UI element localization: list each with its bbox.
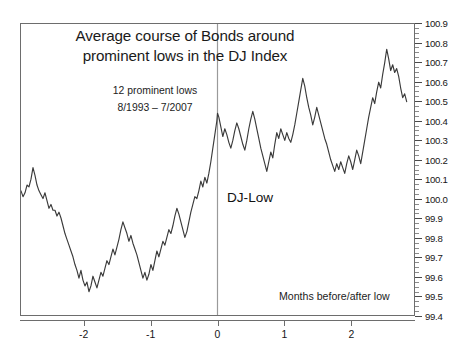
y-axis-minor-tick (415, 72, 419, 73)
y-axis-tick (415, 179, 422, 180)
y-axis-tick (415, 121, 422, 122)
sample-annotation: 12 prominent lows 8/1993 – 7/2007 (96, 82, 214, 116)
sample-count-label: 12 prominent lows (96, 82, 214, 99)
y-axis-minor-tick (415, 262, 419, 263)
y-axis-minor-tick (415, 111, 419, 112)
y-axis-minor-tick (415, 91, 419, 92)
y-axis-tick (415, 257, 422, 258)
y-axis-minor-tick (415, 228, 419, 229)
y-axis-tick (415, 199, 422, 200)
y-axis-tick-label: 100.0 (425, 193, 448, 204)
x-axis-tick (218, 320, 219, 326)
y-axis-tick-label: 100.6 (425, 76, 448, 87)
y-axis-minor-tick (415, 248, 419, 249)
y-axis-tick (415, 62, 422, 63)
x-axis-tick (284, 320, 285, 326)
y-axis-minor-tick (415, 213, 419, 214)
y-axis-minor-tick (415, 52, 419, 53)
y-axis-minor-tick (415, 189, 419, 190)
y-axis-tick (415, 238, 422, 239)
y-axis-tick-label: 99.5 (425, 291, 442, 302)
y-axis-tick (415, 43, 422, 44)
y-axis-tick (415, 277, 422, 278)
x-axis-tick (351, 320, 352, 326)
y-axis-minor-tick (415, 150, 419, 151)
y-axis-minor-tick (415, 38, 419, 39)
y-axis-minor-tick (415, 292, 419, 293)
y-axis: 99.499.599.699.799.899.9100.0100.1100.21… (415, 23, 466, 316)
x-axis-tick-label: 2 (349, 329, 355, 340)
y-axis-minor-tick (415, 170, 419, 171)
y-axis-tick-label: 100.4 (425, 115, 448, 126)
y-axis-tick (415, 82, 422, 83)
y-axis-tick-label: 100.7 (425, 57, 448, 68)
dj-low-label: DJ-Low (227, 190, 273, 205)
y-axis-minor-tick (415, 116, 419, 117)
x-axis-tick (84, 320, 85, 326)
y-axis-tick-label: 100.8 (425, 37, 448, 48)
sample-period-label: 8/1993 – 7/2007 (96, 99, 214, 116)
y-axis-minor-tick (415, 77, 419, 78)
y-axis-minor-tick (415, 287, 419, 288)
chart-title-line-1: Average course of Bonds around (20, 26, 350, 46)
y-axis-minor-tick (415, 33, 419, 34)
y-axis-minor-tick (415, 126, 419, 127)
y-axis-minor-tick (415, 130, 419, 131)
y-axis-tick-label: 100.3 (425, 135, 448, 146)
y-axis-tick-label: 99.6 (425, 271, 442, 282)
y-axis-minor-tick (415, 174, 419, 175)
y-axis-tick (415, 296, 422, 297)
plot-svg (21, 24, 414, 315)
x-axis: -2-1012 (20, 320, 415, 353)
chart-title-line-2: prominent lows in the DJ Index (20, 46, 350, 66)
y-axis-minor-tick (415, 135, 419, 136)
y-axis-minor-tick (415, 311, 419, 312)
y-axis-tick-label: 100.2 (425, 154, 448, 165)
y-axis-minor-tick (415, 28, 419, 29)
y-axis-minor-tick (415, 57, 419, 58)
y-axis-minor-tick (415, 106, 419, 107)
y-axis-minor-tick (415, 47, 419, 48)
x-axis-tick (151, 320, 152, 326)
y-axis-tick-label: 99.8 (425, 232, 442, 243)
x-axis-title: Months before/after low (279, 290, 390, 302)
y-axis-minor-tick (415, 306, 419, 307)
y-axis-minor-tick (415, 267, 419, 268)
y-axis-minor-tick (415, 233, 419, 234)
y-axis-minor-tick (415, 243, 419, 244)
y-axis-minor-tick (415, 165, 419, 166)
y-axis-minor-tick (415, 86, 419, 87)
y-axis-minor-tick (415, 223, 419, 224)
y-axis-minor-tick (415, 282, 419, 283)
page-title: Average course of Bonds around prominent… (20, 26, 350, 66)
y-axis-tick-label: 99.4 (425, 311, 442, 322)
x-axis-tick-label: 1 (282, 329, 288, 340)
y-axis-minor-tick (415, 209, 419, 210)
y-axis-minor-tick (415, 253, 419, 254)
y-axis-minor-tick (415, 272, 419, 273)
y-axis-minor-tick (415, 184, 419, 185)
y-axis-tick (415, 101, 422, 102)
y-axis-tick-label: 100.5 (425, 96, 448, 107)
y-axis-tick (415, 160, 422, 161)
y-axis-tick-label: 100.1 (425, 174, 448, 185)
x-axis-tick-label: 0 (215, 329, 221, 340)
x-axis-tick-label: -1 (146, 329, 155, 340)
y-axis-tick-label: 100.9 (425, 18, 448, 29)
y-axis-tick (415, 23, 422, 24)
y-axis-tick (415, 218, 422, 219)
y-axis-minor-tick (415, 194, 419, 195)
y-axis-tick (415, 316, 422, 317)
chart-figure: Average course of Bonds around prominent… (0, 0, 466, 353)
y-axis-tick-label: 99.9 (425, 213, 442, 224)
y-axis-tick (415, 140, 422, 141)
plot-area (20, 23, 415, 316)
y-axis-minor-tick (415, 145, 419, 146)
y-axis-minor-tick (415, 155, 419, 156)
y-axis-minor-tick (415, 204, 419, 205)
y-axis-minor-tick (415, 67, 419, 68)
y-axis-minor-tick (415, 301, 419, 302)
x-axis-tick-label: -2 (79, 329, 88, 340)
y-axis-minor-tick (415, 96, 419, 97)
y-axis-tick-label: 99.7 (425, 252, 442, 263)
